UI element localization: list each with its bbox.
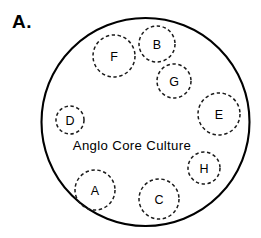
core-culture-label: Anglo Core Culture: [73, 138, 191, 153]
diagram-canvas: A. F B G E D: [0, 0, 261, 238]
subgroup-label-b: B: [153, 38, 161, 52]
subgroup-label-g: G: [169, 75, 179, 89]
subgroup-label-e: E: [215, 108, 223, 122]
panel-label: A.: [12, 11, 32, 32]
subgroup-label-f: F: [110, 50, 118, 64]
figure-panel-a: A. F B G E D: [0, 0, 261, 238]
subgroup-label-c: C: [154, 193, 163, 207]
subgroup-label-a: A: [91, 184, 100, 198]
subgroup-label-d: D: [65, 114, 74, 128]
subgroup-label-h: H: [199, 162, 208, 176]
